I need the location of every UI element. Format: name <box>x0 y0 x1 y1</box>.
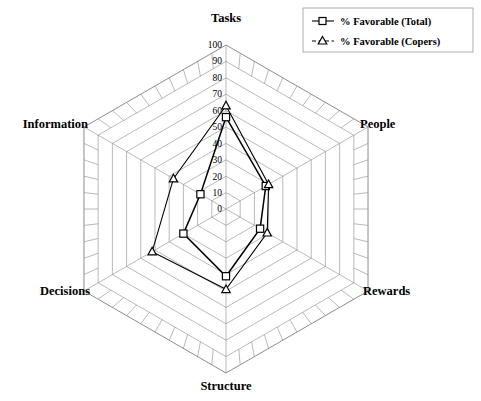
data-point-total-decisions[interactable] <box>180 230 187 237</box>
tick-label-80: 80 <box>213 73 223 83</box>
grid-hatch <box>169 78 175 91</box>
radar-chart-svg: 100 90 80 70 60 50 40 30 20 10 0 Tasks P… <box>0 0 481 401</box>
grid-hatch <box>328 298 339 308</box>
grid-hatch <box>84 253 98 258</box>
grid-hatch <box>354 143 368 150</box>
radar-series-group <box>148 101 273 292</box>
tick-label-100: 100 <box>208 40 223 50</box>
axis-label-rewards: Rewards <box>363 284 410 298</box>
grid-hatch <box>354 253 368 258</box>
grid-hatch <box>341 290 354 299</box>
tick-label-60: 60 <box>213 106 223 116</box>
radar-grid <box>84 45 368 373</box>
legend-square-marker-icon <box>319 18 326 25</box>
axis-label-people: People <box>360 117 396 131</box>
grid-hatch <box>212 349 213 365</box>
tick-label-50: 50 <box>213 122 223 132</box>
grid-hatch <box>252 342 255 357</box>
axis-label-tasks: Tasks <box>211 11 241 25</box>
grid-hatch <box>239 53 240 69</box>
grid-hatch <box>155 320 162 332</box>
grid-hatch <box>341 119 354 128</box>
grid-hatch <box>198 61 201 76</box>
grid-hatch <box>155 86 162 98</box>
grid-hatch <box>141 312 150 323</box>
series-polygon-copers <box>152 106 268 290</box>
grid-hatch <box>98 290 111 299</box>
radar-chart-container: 100 90 80 70 60 50 40 30 20 10 0 Tasks P… <box>0 0 481 401</box>
legend-label-total: % Favorable (Total) <box>340 16 432 28</box>
axis-label-structure: Structure <box>200 379 252 393</box>
data-point-total-rewards[interactable] <box>256 225 263 232</box>
grid-hatch <box>84 176 98 179</box>
grid-hatch <box>84 160 98 165</box>
grid-hatch <box>183 334 187 348</box>
axis-titles: Tasks People Rewards Structure Decisions… <box>23 11 411 393</box>
grid-hatch <box>141 94 150 105</box>
grid-hatch <box>84 239 98 242</box>
grid-hatch <box>127 305 137 316</box>
grid-hatch <box>98 119 111 128</box>
tick-label-70: 70 <box>213 89 223 99</box>
grid-hatch <box>277 327 283 340</box>
data-point-total-structure[interactable] <box>222 273 229 280</box>
axis-label-decisions: Decisions <box>40 284 90 298</box>
tick-label-20: 20 <box>213 172 223 182</box>
grid-hatch <box>290 320 297 332</box>
grid-hatch <box>84 268 98 275</box>
grid-hatch <box>84 193 98 195</box>
grid-hatch <box>354 239 368 242</box>
grid-hatch <box>354 268 368 275</box>
grid-hatch <box>290 86 297 98</box>
grid-hatch <box>127 102 137 113</box>
grid-hatch <box>354 193 368 195</box>
radial-tick-labels: 100 90 80 70 60 50 40 30 20 10 0 <box>208 40 223 214</box>
grid-hatch <box>315 305 325 316</box>
grid-hatch <box>84 224 98 226</box>
legend-label-copers: % Favorable (Copers) <box>340 36 441 48</box>
tick-label-30: 30 <box>213 155 223 165</box>
data-point-total-information[interactable] <box>197 191 204 198</box>
chart-legend[interactable]: % Favorable (Total) % Favorable (Copers) <box>303 8 473 52</box>
grid-hatch <box>303 94 312 105</box>
grid-hatch <box>277 78 283 91</box>
grid-hatch <box>264 334 268 348</box>
grid-hatch <box>354 176 368 179</box>
grid-hatch <box>328 111 339 121</box>
tick-label-10: 10 <box>213 188 223 198</box>
tick-label-90: 90 <box>213 56 223 66</box>
grid-hatch <box>252 61 255 76</box>
grid-hatch <box>239 349 240 365</box>
grid-hatch <box>84 143 98 150</box>
tick-label-0: 0 <box>217 204 222 214</box>
grid-hatch <box>315 102 325 113</box>
grid-hatch <box>354 160 368 165</box>
data-point-copers-tasks[interactable] <box>222 101 230 109</box>
grid-hatch <box>354 224 368 226</box>
grid-hatch <box>112 298 123 308</box>
axis-label-information: Information <box>23 117 88 131</box>
grid-hatch <box>198 342 201 357</box>
grid-hatch <box>183 70 187 84</box>
grid-hatch <box>303 312 312 323</box>
grid-hatch <box>112 111 123 121</box>
grid-hatch <box>169 327 175 340</box>
grid-hatch <box>264 70 268 84</box>
data-point-total-tasks[interactable] <box>222 114 229 121</box>
tick-label-40: 40 <box>213 139 223 149</box>
